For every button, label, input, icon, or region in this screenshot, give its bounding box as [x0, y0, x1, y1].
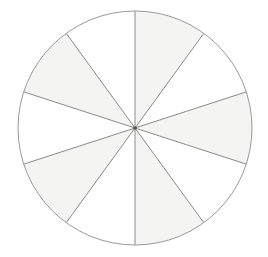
- pie-circle-diagram: [0, 0, 268, 257]
- center-point-marker: [134, 127, 137, 130]
- fraction-circle-figure: [0, 0, 268, 257]
